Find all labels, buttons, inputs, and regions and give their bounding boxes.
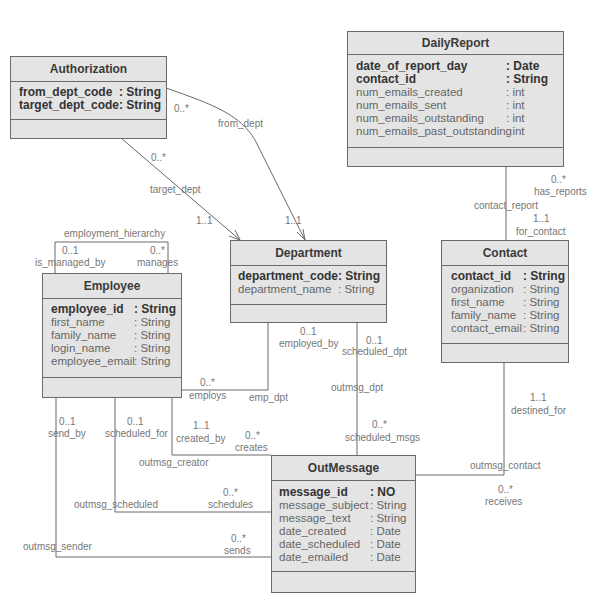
multiplicity-label: 0..* — [245, 430, 260, 441]
attribute-list: from_dept_code: String target_dept_code:… — [11, 82, 166, 120]
class-title: DailyReport — [348, 32, 563, 55]
attribute-row: message_id: NO — [279, 486, 415, 499]
attribute-list: contact_id: String organization: String … — [442, 266, 568, 344]
attribute-row: department_name: String — [238, 283, 386, 296]
attribute-row: contact_id: String — [356, 73, 563, 86]
association-name-label: employment_hierarchy — [64, 228, 165, 239]
attribute-row: department_code: String — [238, 270, 386, 283]
attribute-row: date_created: Date — [279, 525, 415, 538]
attribute-list: employee_id: String first_name: String f… — [43, 299, 181, 378]
attribute-row: contact_email: String — [451, 322, 568, 335]
multiplicity-label: 0..1 — [59, 416, 76, 427]
role-label: from_dept — [218, 118, 263, 129]
association-name-label: outmsg_sender — [23, 541, 92, 552]
multiplicity-label: 0..* — [151, 152, 166, 163]
attribute-row: family_name: String — [451, 309, 568, 322]
association-name-label: outmsg_contact — [470, 460, 541, 471]
role-label: manages — [137, 257, 178, 268]
attribute-list: department_code: String department_name:… — [231, 266, 386, 305]
association-name-label: outmsg_dpt — [331, 382, 383, 393]
role-label: for_contact — [516, 226, 565, 237]
role-label: sends — [224, 545, 251, 556]
class-authorization[interactable]: Authorization from_dept_code: String tar… — [10, 56, 167, 139]
role-label: destined_for — [511, 405, 566, 416]
attribute-row: first_name: String — [51, 316, 181, 329]
multiplicity-label: 1..1 — [285, 215, 302, 226]
role-label: employs — [189, 390, 226, 401]
class-title: Authorization — [11, 57, 166, 82]
association-name-label: contact_report — [474, 200, 538, 211]
multiplicity-label: 0..* — [551, 174, 566, 185]
class-title: Contact — [442, 241, 568, 266]
attribute-list: date_of_report_day: Date contact_id: Str… — [348, 55, 563, 148]
multiplicity-label: 0..* — [231, 533, 246, 544]
attribute-row: family_name: String — [51, 329, 181, 342]
attribute-row: message_subject: String — [279, 499, 415, 512]
multiplicity-label: 0..* — [150, 245, 165, 256]
attribute-row: date_scheduled: Date — [279, 538, 415, 551]
association-name-label: outmsg_creator — [139, 457, 208, 468]
association-name-label: emp_dpt — [249, 392, 288, 403]
uml-class-diagram: Authorization from_dept_code: String tar… — [0, 0, 595, 605]
multiplicity-label: 1..1 — [193, 420, 210, 431]
role-label: is_managed_by — [35, 257, 106, 268]
class-employee[interactable]: Employee employee_id: String first_name:… — [42, 273, 182, 398]
role-label: receives — [485, 496, 522, 507]
class-title: OutMessage — [272, 456, 415, 481]
multiplicity-label: 0..* — [498, 484, 513, 495]
role-label: schedules — [208, 499, 253, 510]
attribute-row: login_name: String — [51, 342, 181, 355]
class-daily-report[interactable]: DailyReport date_of_report_day: Date con… — [347, 31, 564, 167]
multiplicity-label: 0..1 — [300, 326, 317, 337]
assoc-outmsg-contact — [415, 362, 504, 475]
multiplicity-label: 1..1 — [533, 213, 550, 224]
attribute-row: organization: String — [451, 283, 568, 296]
multiplicity-label: 0..* — [200, 377, 215, 388]
multiplicity-label: 0..* — [372, 419, 387, 430]
multiplicity-label: 1..1 — [530, 392, 547, 403]
attribute-row: num_emails_past_outstanding: int — [356, 125, 563, 138]
attribute-row: contact_id: String — [451, 270, 568, 283]
multiplicity-label: 0..1 — [62, 245, 79, 256]
association-name-label: outmsg_scheduled — [74, 499, 158, 510]
role-label: scheduled_msgs — [345, 432, 420, 443]
multiplicity-label: 0..1 — [127, 416, 144, 427]
role-label: scheduled_for — [105, 428, 168, 439]
attribute-row: employee_id: String — [51, 303, 181, 316]
role-label: employed_by — [279, 338, 338, 349]
role-label: created_by — [176, 433, 225, 444]
attribute-row: num_emails_created: int — [356, 86, 563, 99]
attribute-row: target_dept_code: String — [19, 99, 166, 112]
class-title: Department — [231, 241, 386, 266]
attribute-row: message_text: String — [279, 512, 415, 525]
class-contact[interactable]: Contact contact_id: String organization:… — [441, 240, 569, 363]
attribute-list: message_id: NO message_subject: String m… — [272, 481, 415, 572]
attribute-row: first_name: String — [451, 296, 568, 309]
role-label: target_dept — [150, 184, 201, 195]
attribute-row: num_emails_outstanding: int — [356, 112, 563, 125]
class-department[interactable]: Department department_code: String depar… — [230, 240, 387, 323]
attribute-row: date_emailed: Date — [279, 551, 415, 564]
multiplicity-label: 1..1 — [196, 215, 213, 226]
multiplicity-label: 0..* — [223, 487, 238, 498]
class-title: Employee — [43, 274, 181, 299]
role-label: send_by — [48, 428, 86, 439]
role-label: creates — [235, 442, 268, 453]
class-out-message[interactable]: OutMessage message_id: NO message_subjec… — [271, 455, 416, 593]
multiplicity-label: 0..* — [174, 103, 189, 114]
role-label: scheduled_dpt — [342, 346, 407, 357]
role-label: has_reports — [534, 186, 587, 197]
multiplicity-label: 0..1 — [366, 335, 383, 346]
attribute-row: num_emails_sent: int — [356, 99, 563, 112]
attribute-row: employee_email: String — [51, 355, 181, 368]
assoc-emp-dpt — [181, 322, 268, 390]
